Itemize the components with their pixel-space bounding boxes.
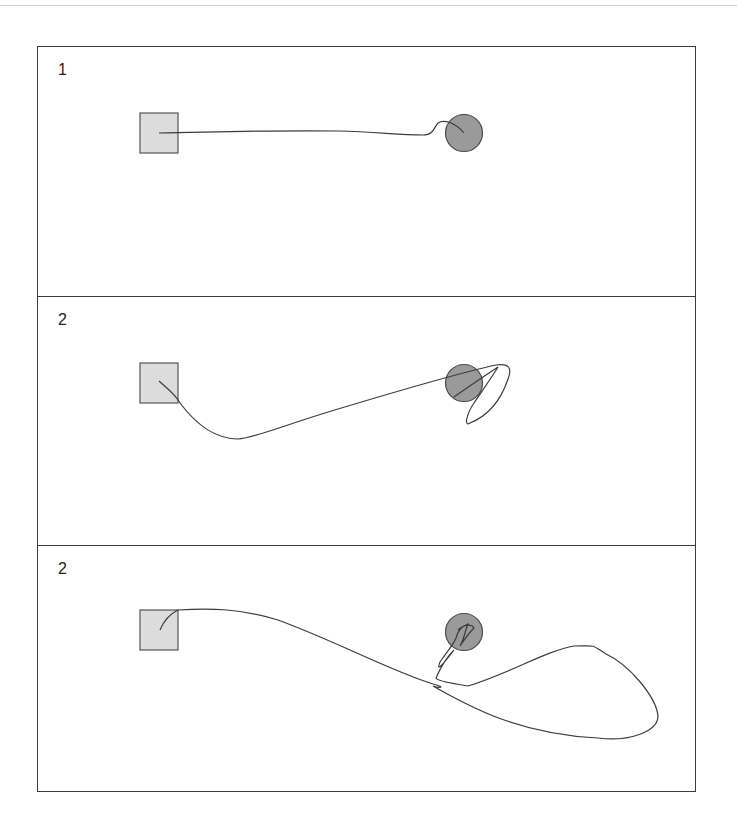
start-square-icon: [140, 363, 178, 403]
trajectory-path: [160, 609, 658, 739]
trajectory-figure: 1 2 2: [37, 46, 696, 792]
panel-3: 2: [38, 545, 695, 793]
start-square-icon: [140, 610, 178, 650]
trajectory-path: [159, 121, 464, 135]
panel-1: 1: [38, 47, 695, 296]
panel-2: 2: [38, 296, 695, 545]
panel-1-canvas: [38, 47, 697, 296]
panel-2-canvas: [38, 297, 697, 546]
panel-3-canvas: [38, 546, 697, 794]
top-rule: [0, 5, 737, 6]
goal-circle-icon: [446, 614, 483, 651]
